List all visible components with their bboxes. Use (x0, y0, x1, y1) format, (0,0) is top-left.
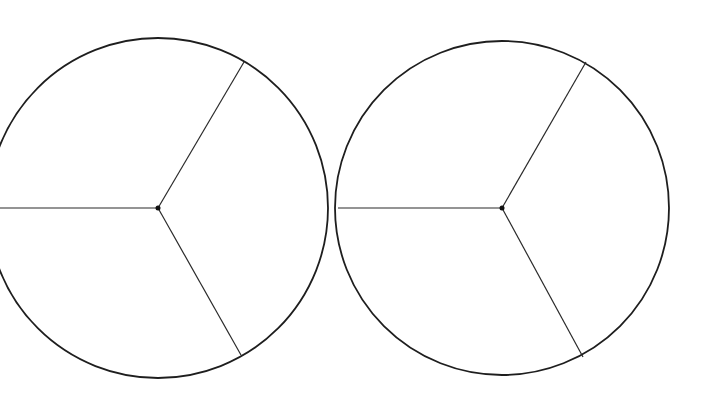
right-spoke-lower-right (502, 208, 583, 357)
left-center-dot (156, 206, 161, 211)
right-circle (335, 41, 669, 375)
right-spoke-upper-right (502, 62, 586, 208)
left-circle (0, 38, 328, 378)
left-spoke-lower-right (158, 208, 241, 355)
right-center-dot (500, 206, 505, 211)
diagram-canvas (0, 0, 703, 414)
left-spoke-upper-right (158, 62, 244, 208)
